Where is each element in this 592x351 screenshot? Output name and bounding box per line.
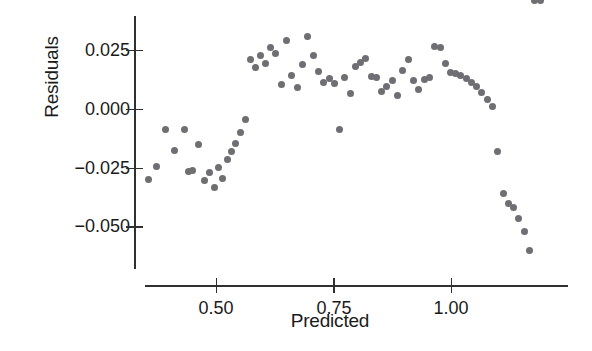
scatter-point [426, 74, 433, 81]
scatter-point [162, 126, 169, 133]
scatter-point [257, 52, 264, 59]
scatter-point [201, 177, 208, 184]
scatter-point [442, 60, 449, 67]
scatter-point [521, 228, 528, 235]
scatter-point [189, 167, 196, 174]
scatter-point [283, 37, 290, 44]
scatter-point [272, 50, 279, 57]
scatter-point [237, 129, 244, 136]
scatter-point [153, 163, 160, 170]
scatter-point [489, 103, 496, 110]
scatter-point [437, 44, 444, 51]
scatter-point [389, 77, 396, 84]
scatter-point [399, 67, 406, 74]
scatter-point [331, 80, 338, 87]
scatter-point [383, 83, 390, 90]
scatter-point [415, 86, 422, 93]
scatter-point [219, 175, 226, 182]
scatter-point [252, 64, 259, 71]
scatter-point [394, 92, 401, 99]
scatter-point [195, 141, 202, 148]
scatter-point [206, 169, 213, 176]
scatter-point [304, 33, 311, 40]
scatter-point [215, 164, 222, 171]
scatter-point [211, 184, 218, 191]
scatter-point [278, 81, 285, 88]
scatter-point [494, 148, 501, 155]
scatter-point [341, 74, 348, 81]
scatter-point [262, 60, 269, 67]
scatter-point [537, 0, 544, 4]
scatter-point [181, 126, 188, 133]
scatter-point [224, 156, 231, 163]
scatter-point [484, 96, 491, 103]
scatter-point [242, 116, 249, 123]
scatter-point [171, 147, 178, 154]
scatter-point [478, 89, 485, 96]
scatter-point [228, 148, 235, 155]
scatter-point [500, 190, 507, 197]
scatter-point [315, 68, 322, 75]
plot-area [0, 0, 592, 351]
scatter-point [288, 72, 295, 79]
scatter-point [373, 74, 380, 81]
scatter-point [232, 140, 239, 147]
scatter-point [299, 61, 306, 68]
residuals-vs-predicted-scatter-plot: Residuals 0.025 0.000 −0.025 −0.050 0.50… [0, 0, 592, 351]
scatter-point [410, 77, 417, 84]
scatter-point [145, 176, 152, 183]
scatter-point [526, 247, 533, 254]
scatter-point [294, 84, 301, 91]
scatter-point [247, 56, 254, 63]
scatter-point [336, 126, 343, 133]
scatter-point [310, 52, 317, 59]
scatter-point [362, 55, 369, 62]
scatter-point [515, 215, 522, 222]
scatter-point [347, 90, 354, 97]
scatter-point [405, 56, 412, 63]
scatter-point [510, 204, 517, 211]
